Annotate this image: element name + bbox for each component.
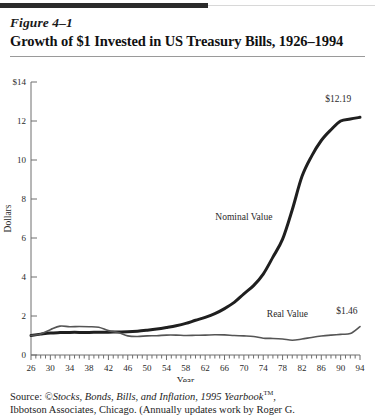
top-rule-divider [0, 3, 208, 8]
chart-annotation-real-value: Real Value [267, 309, 308, 319]
x-axis-tick-label: 78 [278, 363, 288, 373]
figure-header: Figure 4–1 Growth of $1 Invested in US T… [10, 14, 368, 51]
y-axis-tick-label: 12 [17, 116, 26, 126]
y-axis-tick-label: 6 [22, 233, 27, 243]
header-divider [10, 56, 365, 57]
copyright-icon: © [45, 391, 53, 402]
x-axis-tick-label: 86 [317, 363, 327, 373]
x-axis-tick-label: 46 [123, 363, 133, 373]
y-axis-tick-label: $14 [13, 77, 27, 87]
y-axis-title: Dollars [3, 204, 13, 232]
x-axis-tick-label: 34 [65, 363, 75, 373]
x-axis-tick-label: 82 [297, 363, 306, 373]
x-axis-tick-label: 30 [46, 363, 56, 373]
x-axis-tick-label: 90 [336, 363, 346, 373]
y-axis-tick-label: 4 [22, 272, 27, 282]
x-axis-title: Year [177, 376, 195, 382]
y-axis-tick-label: 10 [17, 155, 27, 165]
source-prefix: Source: [10, 391, 42, 402]
figure-number: Figure 4–1 [10, 14, 368, 31]
x-axis-tick-label: 38 [85, 363, 95, 373]
y-axis-tick-label: 2 [22, 311, 27, 321]
source-note: Source: ©Stocks, Bonds, Bills, and Infla… [10, 386, 370, 417]
x-axis-tick-label: 94 [356, 363, 366, 373]
x-axis-tick-label: 50 [143, 363, 153, 373]
x-axis-tick-label: 58 [181, 363, 191, 373]
top-rule-thin-divider [208, 5, 375, 6]
chart-annotation-1-46: $1.46 [336, 306, 358, 316]
x-axis-tick-label: 62 [201, 363, 210, 373]
chart-annotation-12-19: $12.19 [325, 94, 351, 104]
chart-plot-area: $141210864202630343842465054586266707478… [0, 62, 375, 382]
x-axis-tick-label: 66 [220, 363, 230, 373]
y-axis-tick-label: 0 [22, 350, 27, 360]
x-axis-tick-label: 70 [239, 363, 249, 373]
line-chart: $141210864202630343842465054586266707478… [0, 62, 375, 382]
source-work-title: Stocks, Bonds, Bills, and Inflation, 199… [53, 391, 264, 402]
figure-title: Growth of $1 Invested in US Treasury Bil… [10, 32, 368, 51]
x-axis-tick-label: 74 [259, 363, 269, 373]
x-axis-tick-label: 42 [104, 363, 113, 373]
x-axis-tick-label: 26 [27, 363, 37, 373]
source-line-2: Ibbotson Associates, Chicago. (Annually … [10, 403, 370, 417]
trademark-icon: TM [263, 389, 273, 396]
y-axis-tick-label: 8 [22, 194, 27, 204]
series-line-nominal-value [31, 117, 360, 335]
x-axis-tick-label: 54 [162, 363, 172, 373]
chart-annotation-nominal-value: Nominal Value [215, 212, 272, 222]
source-comma: , [273, 391, 276, 402]
